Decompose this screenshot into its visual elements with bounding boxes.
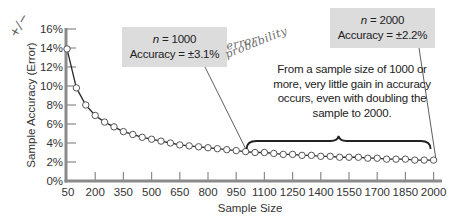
data-point-marker: [130, 131, 136, 137]
data-point-marker: [120, 128, 126, 134]
x-tick-label: 950: [227, 186, 246, 198]
data-point-marker: [195, 144, 201, 150]
callout-n2000-accuracy: Accuracy = ±2.2%: [330, 28, 435, 43]
data-point-marker: [421, 157, 427, 163]
x-tick-label: 350: [114, 186, 133, 198]
data-point-marker: [177, 142, 183, 148]
y-axis-title: Sample Accuracy (Error): [25, 42, 37, 167]
data-point-marker: [148, 136, 154, 142]
data-point-marker: [224, 146, 230, 152]
data-point-marker: [430, 157, 436, 163]
n-value: = 2000: [367, 14, 404, 26]
data-point-marker: [233, 147, 239, 153]
x-tick-label: 650: [170, 186, 189, 198]
data-point-marker: [355, 154, 361, 160]
data-point-marker: [393, 156, 399, 162]
data-point-marker: [64, 46, 70, 52]
data-point-marker: [318, 153, 324, 159]
data-point-marker: [271, 150, 277, 156]
x-tick-label: 1400: [308, 186, 334, 198]
callout-n2000: n = 2000 Accuracy = ±2.2%: [330, 8, 435, 48]
y-tick-label: 12%: [40, 61, 63, 73]
y-tick-label: 16%: [40, 23, 63, 35]
x-tick-label: 1700: [364, 186, 390, 198]
data-point-marker: [327, 153, 333, 159]
data-point-marker: [92, 112, 98, 118]
callout-n1000-accuracy: Accuracy = ±3.1%: [122, 47, 227, 62]
data-point-marker: [214, 146, 220, 152]
x-tick-label: 50: [62, 186, 75, 198]
x-tick-label: 1850: [393, 186, 419, 198]
data-point-marker: [336, 154, 342, 160]
data-point-marker: [383, 156, 389, 162]
data-point-marker: [308, 152, 314, 158]
callout-n2000-sample: n = 2000: [330, 13, 435, 28]
x-tick-label: 200: [86, 186, 105, 198]
data-point-marker: [289, 151, 295, 157]
data-point-marker: [186, 143, 192, 149]
data-point-marker: [374, 155, 380, 161]
data-point-marker: [158, 138, 164, 144]
callout-n1000-sample: n = 1000: [122, 32, 227, 47]
n-value: = 1000: [159, 33, 196, 45]
data-point-marker: [280, 151, 286, 157]
data-point-marker: [167, 140, 173, 146]
y-tick-label: 14%: [40, 42, 63, 54]
data-point-marker: [139, 134, 145, 140]
x-tick-label: 1250: [280, 186, 306, 198]
data-point-marker: [299, 152, 305, 158]
callout-n1000: n = 1000 Accuracy = ±3.1%: [122, 27, 227, 67]
data-point-marker: [242, 148, 248, 154]
data-point-marker: [205, 145, 211, 151]
y-tick-label: 4%: [46, 137, 63, 149]
data-point-marker: [111, 124, 117, 130]
y-tick-label: 10%: [40, 80, 63, 92]
curly-brace: [247, 136, 431, 149]
x-tick-label: 800: [198, 186, 217, 198]
data-point-marker: [261, 149, 267, 155]
data-point-marker: [83, 102, 89, 108]
data-point-marker: [402, 156, 408, 162]
x-tick-label: 2000: [421, 186, 447, 198]
y-tick-label: 8%: [46, 99, 63, 111]
data-point-marker: [346, 154, 352, 160]
x-axis-title: Sample Size: [218, 202, 283, 214]
data-point-marker: [73, 85, 79, 91]
x-tick-label: 1550: [336, 186, 362, 198]
y-tick-label: 6%: [46, 118, 63, 130]
y-tick-label: 0%: [46, 175, 63, 187]
diminishing-returns-note: From a sample size of 1000 or more, very…: [262, 62, 442, 120]
leader-line-1000: [205, 67, 246, 149]
data-point-marker: [365, 155, 371, 161]
data-point-marker: [252, 149, 258, 155]
x-tick-label: 500: [142, 186, 161, 198]
y-tick-label: 2%: [46, 156, 63, 168]
x-tick-label: 1100: [252, 186, 277, 198]
data-point-marker: [412, 157, 418, 163]
data-point-marker: [101, 119, 107, 125]
